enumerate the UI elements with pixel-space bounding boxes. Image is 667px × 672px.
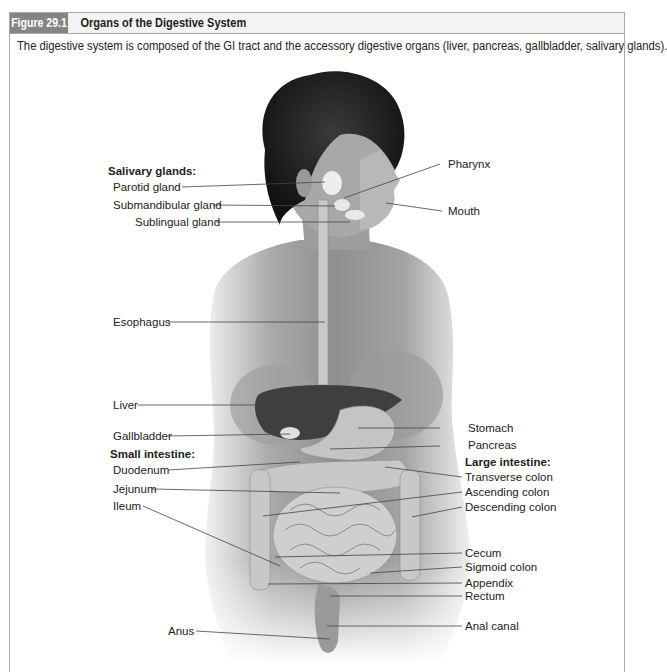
label-large-intestine-heading: Large intestine: [465, 455, 551, 469]
label-salivary-glands-heading: Salivary glands: [108, 164, 196, 178]
label-sigmoid-colon: Sigmoid colon [465, 560, 537, 574]
label-sublingual-gland: Sublingual gland [135, 215, 220, 229]
label-liver: Liver [113, 398, 138, 412]
head [262, 71, 404, 237]
label-small-intestine-heading: Small intestine: [110, 447, 195, 461]
label-submandibular-gland: Submandibular gland [113, 198, 222, 212]
label-rectum: Rectum [465, 589, 505, 603]
label-mouth: Mouth [448, 204, 480, 218]
label-duodenum: Duodenum [113, 463, 169, 477]
label-transverse-colon: Transverse colon [465, 470, 553, 484]
label-anal-canal: Anal canal [465, 619, 519, 633]
label-gallbladder: Gallbladder [113, 429, 172, 443]
esophagus-shape [318, 200, 328, 385]
label-stomach: Stomach [468, 421, 513, 435]
label-pharynx: Pharynx [448, 157, 490, 171]
label-pancreas: Pancreas [468, 438, 517, 452]
gallbladder-shape [280, 427, 300, 439]
label-anus: Anus [168, 624, 194, 638]
label-parotid-gland: Parotid gland [113, 180, 181, 194]
label-descending-colon: Descending colon [465, 500, 556, 514]
label-appendix: Appendix [465, 576, 513, 590]
label-esophagus: Esophagus [113, 315, 171, 329]
label-ascending-colon: Ascending colon [465, 485, 549, 499]
label-ileum: Ileum [113, 499, 141, 513]
label-jejunum: Jejunum [113, 482, 156, 496]
label-cecum: Cecum [465, 546, 501, 560]
